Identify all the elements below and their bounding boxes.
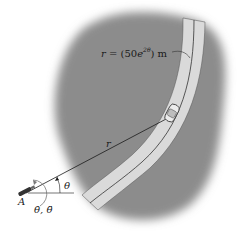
angular-rates-label: θ̇, θ̈ <box>34 204 52 215</box>
radar-gun-icon <box>18 185 36 197</box>
diagram-canvas <box>0 0 237 234</box>
trajectory-equation: r = (50e2θ) m <box>101 46 167 59</box>
angle-label: θ <box>64 180 70 191</box>
radius-label: r <box>106 138 111 149</box>
point-a-label: A <box>18 196 25 207</box>
kinematics-diagram: r = (50e2θ) m r θ A θ̇, θ̈ <box>0 0 237 234</box>
